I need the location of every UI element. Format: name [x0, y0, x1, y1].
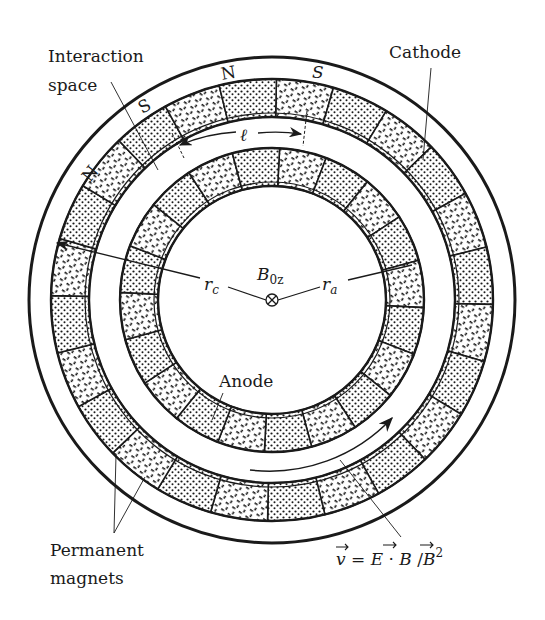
- magnetron-diagram: ℓ B0z rc ra N S N S Interaction space Ca…: [0, 0, 545, 620]
- interaction-space-label-line1: Interaction: [48, 46, 144, 66]
- field-label: B0z: [256, 264, 283, 287]
- pole-n-top-label: N: [219, 62, 237, 84]
- permanent-magnets-leader-a: [114, 455, 116, 533]
- interaction-space-label-line2: space: [48, 75, 97, 95]
- ell-arrow-right: [258, 132, 301, 134]
- magnet-segment: [219, 79, 276, 122]
- ra-line-a: [278, 287, 320, 300]
- pole-s-top-label: S: [312, 62, 324, 82]
- magnet-segment: [450, 247, 493, 304]
- magnet-segment: [268, 478, 325, 521]
- rc-line-b: [228, 287, 266, 300]
- velocity-equation: v = E · B /B2: [336, 542, 443, 569]
- ra-label: ra: [322, 274, 337, 297]
- anode-label: Anode: [218, 371, 273, 391]
- permanent-magnets-label-line1: Permanent: [50, 540, 144, 560]
- magnet-segment: [51, 296, 94, 353]
- permanent-magnets-label-line2: magnets: [50, 568, 124, 588]
- field-into-page-icon: [266, 294, 278, 306]
- svg-text:v = E · B /B2: v = E · B /B2: [336, 546, 443, 569]
- ell-label: ℓ: [240, 125, 247, 145]
- cathode-label: Cathode: [389, 42, 461, 62]
- rc-label: rc: [204, 274, 219, 297]
